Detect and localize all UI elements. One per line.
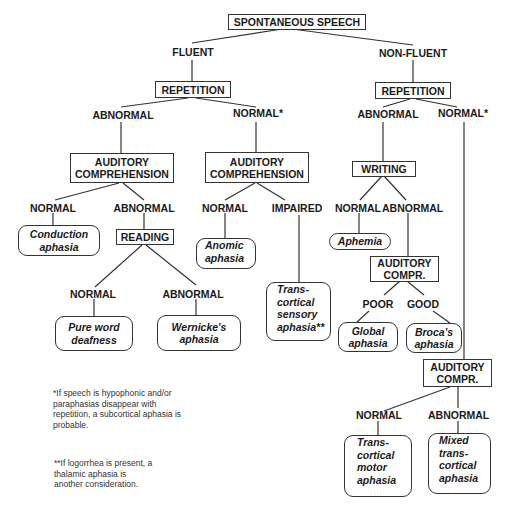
footnote-line: *If speech is hypophonic and/or	[53, 388, 181, 399]
footnote-double-asterisk: **If logorrhea is present, a thalamic ap…	[54, 458, 152, 490]
outcome-line: motor	[357, 461, 387, 474]
poor-label: POOR	[358, 298, 398, 310]
outcome-line: aphasia	[439, 472, 478, 485]
reading-box: READING	[116, 229, 174, 245]
outcome-transcortical-motor-aphasia: Trans- cortical motor aphasia	[344, 435, 412, 497]
footnote-line: paraphasias disappear with	[53, 399, 181, 410]
outcome-line: Wernicke's	[172, 321, 227, 334]
ac4-normal-label: NORMAL	[354, 409, 404, 421]
outcome-line: aphasia	[414, 338, 453, 351]
root-spontaneous-speech: SPONTANEOUS SPEECH	[228, 14, 366, 30]
ac2-normal-label: NORMAL	[201, 202, 249, 214]
footnote-line: **If logorrhea is present, a	[54, 458, 152, 469]
outcome-aphemia: Aphemia	[329, 233, 391, 250]
ac1-abnormal-label: ABNORMAL	[113, 202, 175, 214]
outcome-line: deafness	[71, 334, 117, 347]
fluent-label: FLUENT	[168, 46, 218, 58]
outcome-line: aphasia	[357, 474, 396, 487]
auditory-line1: AUDITORY	[377, 257, 431, 269]
good-label: GOOD	[403, 298, 443, 310]
outcome-line: Trans-	[357, 436, 389, 449]
outcome-transcortical-sensory-aphasia: Trans- cortical sensory aphasia**	[266, 282, 331, 341]
auditory-line2: COMPREHENSION	[210, 168, 304, 180]
outcome-line: Global	[352, 325, 385, 338]
auditory-line1: AUDITORY	[230, 156, 284, 168]
outcome-line: aphasia	[205, 252, 244, 265]
nonfluent-rep-abnormal-label: ABNORMAL	[357, 108, 419, 120]
footnote-line: probable.	[53, 420, 181, 431]
outcome-anomic-aphasia: Anomic aphasia	[196, 238, 256, 269]
outcome-pure-word-deafness: Pure word deafness	[55, 316, 133, 351]
outcome-line: Broca's	[415, 326, 453, 339]
ac2-impaired-label: IMPAIRED	[268, 202, 326, 214]
auditory-compr-box-3: AUDITORY COMPR.	[370, 256, 439, 282]
auditory-comprehension-box-2: AUDITORY COMPREHENSION	[205, 152, 309, 183]
outcome-line: aphasia	[348, 337, 387, 350]
auditory-comprehension-box-1: AUDITORY COMPREHENSION	[70, 153, 174, 183]
auditory-line1: AUDITORY	[95, 156, 149, 168]
auditory-line2: COMPR.	[437, 373, 479, 385]
outcome-line: Anomic	[205, 239, 244, 252]
writing-normal-label: NORMAL	[334, 202, 382, 214]
nonfluent-rep-normal-label: NORMAL*	[435, 107, 491, 119]
fluent-rep-abnormal-label: ABNORMAL	[92, 109, 154, 121]
outcome-conduction-aphasia: Conduction aphasia	[18, 225, 100, 256]
outcome-line: cortical	[357, 449, 394, 462]
writing-abnormal-label: ABNORMAL	[382, 202, 442, 214]
outcome-line: trans-	[439, 447, 468, 460]
outcome-line: Pure word	[68, 321, 119, 334]
outcome-line: cortical	[277, 296, 314, 309]
fluent-repetition-box: REPETITION	[155, 81, 231, 98]
ac4-abnormal-label: ABNORMAL	[428, 409, 488, 421]
outcome-line: Trans-	[277, 283, 309, 296]
fluent-rep-normal-label: NORMAL*	[229, 107, 287, 119]
ac1-normal-label: NORMAL	[29, 202, 77, 214]
nonfluent-label: NON-FLUENT	[378, 47, 448, 59]
footnote-line: repetition, a subcortical aphasia is	[53, 409, 181, 420]
outcome-line: Mixed	[439, 434, 469, 447]
footnote-line: thalamic aphasia is	[54, 469, 152, 480]
outcome-brocas-aphasia: Broca's aphasia	[406, 323, 462, 353]
outcome-wernickes-aphasia: Wernicke's aphasia	[157, 315, 241, 351]
outcome-mixed-transcortical-aphasia: Mixed trans- cortical aphasia	[428, 433, 491, 494]
auditory-line1: AUDITORY	[430, 361, 484, 373]
reading-normal-label: NORMAL	[68, 288, 118, 300]
outcome-line: aphasia**	[277, 321, 324, 334]
footnote-line: another consideration.	[54, 479, 152, 490]
footnote-single-asterisk: *If speech is hypophonic and/or paraphas…	[53, 388, 181, 430]
outcome-line: aphasia	[39, 241, 78, 254]
outcome-line: cortical	[439, 459, 476, 472]
outcome-line: aphasia	[179, 333, 218, 346]
nonfluent-repetition-box: REPETITION	[375, 82, 451, 99]
auditory-line2: COMPR.	[384, 269, 426, 281]
auditory-compr-box-4: AUDITORY COMPR.	[423, 359, 492, 387]
outcome-global-aphasia: Global aphasia	[338, 322, 398, 352]
reading-abnormal-label: ABNORMAL	[161, 288, 225, 300]
writing-box: WRITING	[352, 161, 416, 177]
auditory-line2: COMPREHENSION	[75, 168, 169, 180]
outcome-line: sensory	[277, 308, 317, 321]
outcome-line: Conduction	[30, 228, 88, 241]
